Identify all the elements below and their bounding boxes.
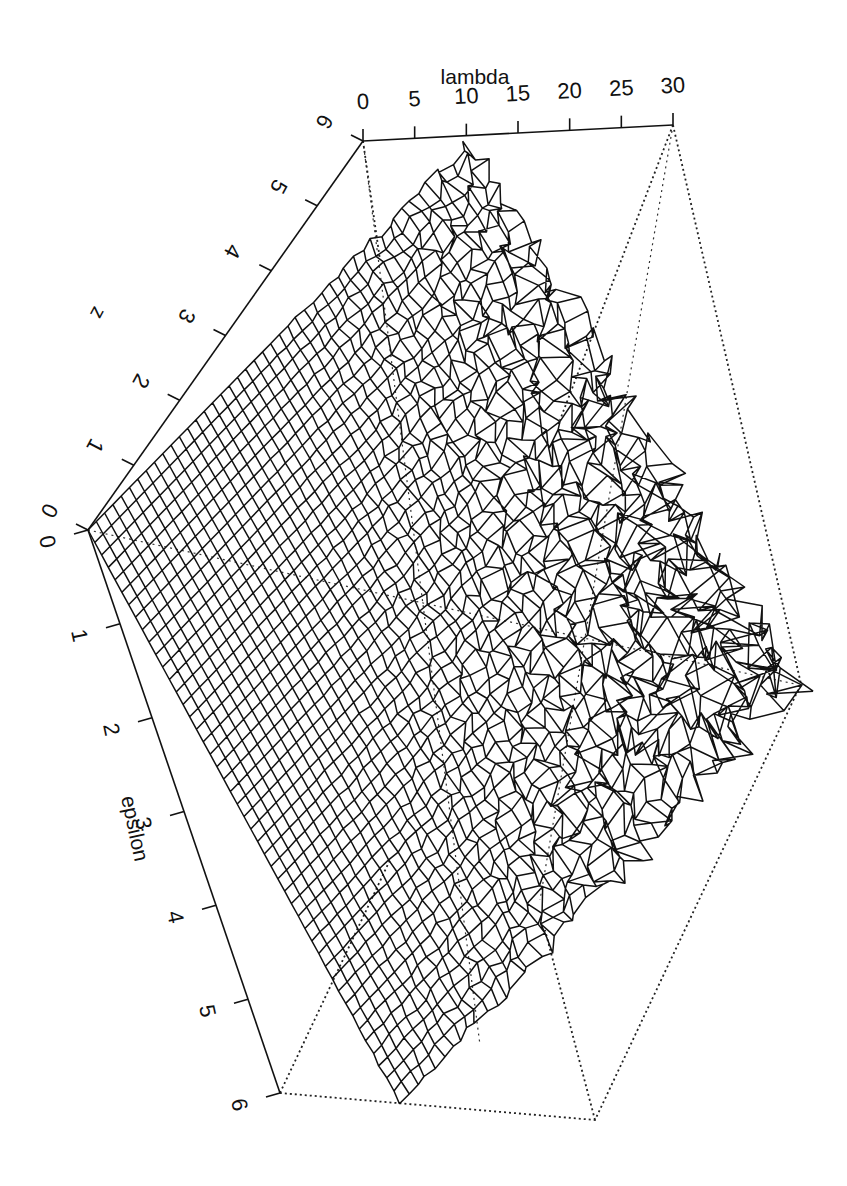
z-axis-title: z (86, 303, 111, 323)
z-tick (122, 459, 134, 465)
epsilon-tick (234, 999, 248, 1003)
z-tick-label: 4 (219, 240, 247, 263)
epsilon-axis-title: epsilon (117, 793, 153, 863)
z-tick-label: 2 (127, 370, 155, 393)
lambda-tick-label: 0 (356, 89, 370, 115)
z-tick-label: 6 (311, 111, 339, 134)
epsilon-tick (266, 1093, 280, 1097)
z-tick (168, 394, 180, 400)
z-tick (351, 135, 363, 141)
epsilon-tick-label: 4 (162, 908, 189, 925)
epsilon-tick (202, 905, 216, 909)
epsilon-tick (170, 812, 184, 816)
z-tick-label: 0 (36, 500, 64, 523)
lambda-axis-title: lambda (441, 65, 510, 88)
epsilon-axis: 0123456 epsilon (34, 530, 280, 1113)
epsilon-tick-label: 5 (194, 1002, 221, 1019)
lambda-tick-label: 20 (557, 78, 583, 104)
wireframe-surface (88, 141, 813, 1104)
z-tick-label: 3 (173, 305, 201, 328)
epsilon-tick-label: 1 (66, 627, 93, 644)
z-tick-label: 5 (265, 175, 293, 198)
lambda-tick-label: 25 (608, 75, 634, 101)
z-tick (259, 265, 271, 271)
mesh-lines (88, 141, 813, 1104)
lambda-tick-label: 5 (408, 86, 422, 112)
epsilon-tick-label: 2 (98, 721, 125, 738)
epsilon-tick-label: 0 (34, 533, 61, 550)
epsilon-tick (138, 718, 152, 722)
z-tick-label: 1 (81, 435, 109, 458)
epsilon-tick-label: 6 (226, 1096, 253, 1113)
lambda-tick-label: 30 (660, 72, 686, 98)
z-tick (76, 524, 88, 530)
lambda-axis: 051015202530 lambda (356, 65, 686, 141)
z-tick (214, 330, 226, 336)
surface-plot: 051015202530 lambda 0123456 z 0123456 ep… (0, 0, 847, 1186)
epsilon-tick (74, 530, 88, 534)
z-tick (305, 200, 317, 206)
epsilon-tick (106, 624, 120, 628)
